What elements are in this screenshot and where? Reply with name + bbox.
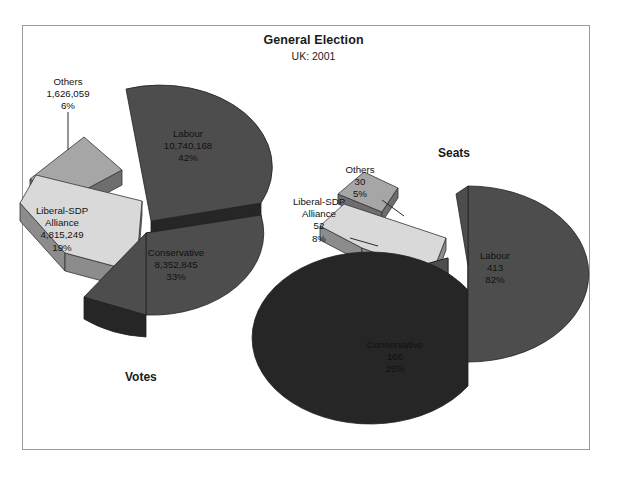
seats-label-others: Others 30 5%: [328, 164, 392, 201]
seats-panel-label: Seats: [438, 146, 470, 160]
votes-label-others: Others 1,626,059 6%: [22, 76, 114, 113]
seats-liberal-percent: 8%: [272, 233, 366, 245]
votes-panel-label: Votes: [125, 370, 157, 384]
votes-others-percent: 6%: [22, 100, 114, 112]
seats-liberal-name2: Alliance: [272, 208, 366, 220]
chart-title: General Election: [0, 33, 627, 47]
votes-others-value: 1,626,059: [22, 88, 114, 100]
seats-others-name: Others: [328, 164, 392, 176]
seats-label-liberal-sdp: Liberal-SDP Alliance 52 8%: [272, 196, 366, 245]
chart-canvas: General Election UK: 2001: [0, 0, 627, 477]
seats-others-percent: 5%: [328, 188, 392, 200]
chart-subtitle: UK: 2001: [0, 50, 627, 62]
seats-liberal-value: 52: [272, 220, 366, 232]
votes-pie-chart: [18, 75, 278, 375]
seats-others-value: 30: [328, 176, 392, 188]
votes-others-name: Others: [22, 76, 114, 88]
